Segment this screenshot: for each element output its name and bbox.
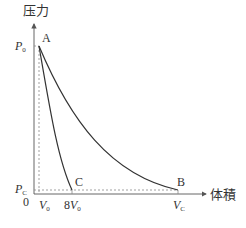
x-axis-label: 体積 bbox=[210, 187, 236, 202]
vc-label: VC bbox=[173, 198, 185, 213]
point-b-label: B bbox=[177, 175, 185, 189]
pc-label: PC bbox=[14, 182, 27, 197]
curve-a-to-c bbox=[39, 46, 72, 190]
point-a-label: A bbox=[42, 31, 51, 45]
point-c-label: C bbox=[75, 175, 83, 189]
pv-diagram: 压力 体積 0 P0 PC V0 8V0 VC A B C bbox=[0, 0, 246, 228]
pv-diagram-svg: 压力 体積 0 P0 PC V0 8V0 VC A B C bbox=[0, 0, 246, 228]
8v0-label: 8V0 bbox=[64, 198, 81, 213]
v0-label: V0 bbox=[39, 198, 50, 213]
curve-a-to-b bbox=[39, 46, 178, 190]
p0-label: P0 bbox=[14, 39, 26, 54]
y-axis-label: 压力 bbox=[23, 3, 49, 18]
origin-label: 0 bbox=[23, 195, 29, 209]
